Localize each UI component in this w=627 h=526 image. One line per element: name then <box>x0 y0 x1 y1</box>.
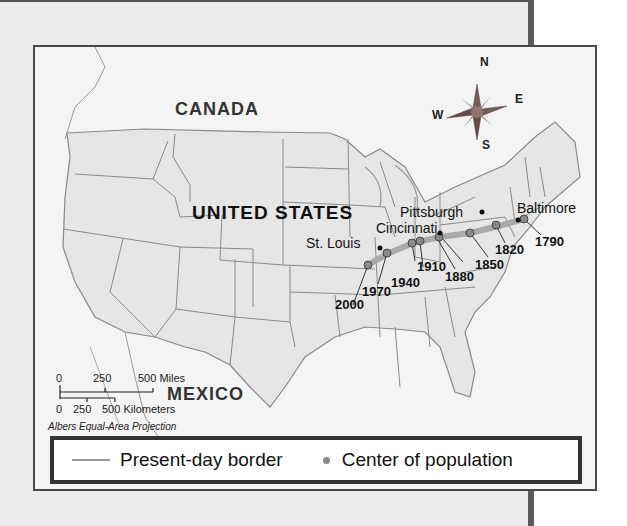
compass-south-label: S <box>482 138 490 152</box>
projection-label: Albers Equal-Area Projection <box>48 421 176 432</box>
scale-miles-500: 500 Miles <box>138 372 185 384</box>
city-label-st-louis: St. Louis <box>306 235 360 251</box>
scale-km-500: 500 Kilometers <box>102 403 175 415</box>
compass-north-label: N <box>480 55 489 69</box>
year-label-1850: 1850 <box>475 257 504 272</box>
year-label-1910: 1910 <box>417 259 446 274</box>
label-united-states: UNITED STATES <box>192 202 353 224</box>
city-label-baltimore: Baltimore <box>517 200 576 216</box>
label-canada: CANADA <box>175 99 259 120</box>
scale-km-0: 0 <box>56 403 62 415</box>
map-legend: Present-day border Center of population <box>50 436 582 484</box>
legend-border-label: Present-day border <box>120 449 283 471</box>
label-mexico: MEXICO <box>167 384 244 405</box>
city-label-pittsburgh: Pittsburgh <box>400 204 463 220</box>
compass-east-label: E <box>515 92 523 106</box>
year-label-1940: 1940 <box>391 275 420 290</box>
legend-center-label: Center of population <box>342 449 513 471</box>
city-label-cincinnati: Cincinnati <box>376 220 437 236</box>
year-label-1880: 1880 <box>445 269 474 284</box>
year-label-1820: 1820 <box>495 242 524 257</box>
year-label-2000: 2000 <box>335 297 364 312</box>
compass-west-label: W <box>432 108 443 122</box>
year-label-1790: 1790 <box>535 234 564 249</box>
year-label-1970: 1970 <box>362 284 391 299</box>
scale-miles-0: 0 <box>56 372 62 384</box>
population-center-map: CANADA UNITED STATES MEXICO Pittsburgh C… <box>33 45 597 491</box>
scale-km-250: 250 <box>73 403 91 415</box>
border-line-icon <box>72 459 110 461</box>
population-dot-icon <box>323 457 330 464</box>
scale-miles-250: 250 <box>93 372 111 384</box>
